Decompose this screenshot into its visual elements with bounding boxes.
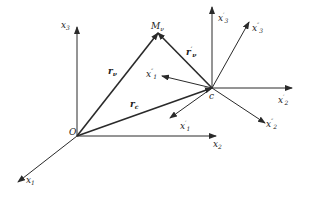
x3-double-prime-axis (212, 22, 249, 88)
x1-prime-label: x′1 (180, 120, 190, 132)
r-nu-vector (77, 33, 158, 136)
mass-point-base: M (151, 21, 160, 31)
r-nu-prime-label: r′ν (186, 46, 197, 58)
x1-double-prime-label: x″1 (146, 68, 157, 80)
mass-point-sub: ν (160, 25, 164, 32)
x2-double-prime-label: x″2 (266, 118, 277, 130)
center-label: c (209, 92, 214, 101)
r-c-label: rc (130, 100, 138, 110)
origin-label: O (69, 128, 76, 137)
x3-double-prime-label: x″3 (252, 22, 263, 34)
x1-prime-axis (170, 88, 212, 118)
mass-point-label: Mν (151, 22, 164, 32)
x1-label: x1 (26, 176, 35, 186)
x1-double-prime-axis (162, 76, 212, 88)
r-c-vector (77, 88, 212, 136)
x2-double-prime-axis (212, 88, 265, 123)
x2-prime-label: x′2 (278, 94, 288, 106)
x2-label: x2 (213, 140, 222, 150)
x3-prime-label: x′3 (218, 12, 228, 24)
r-nu-label: rν (108, 67, 117, 77)
r-nu-prime-vector (158, 33, 212, 88)
x3-label: x3 (61, 21, 70, 31)
